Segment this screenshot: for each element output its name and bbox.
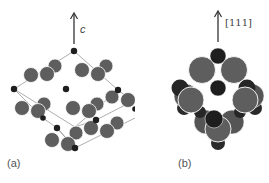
front-grey-atoms [178, 57, 258, 143]
unit-cell-diagram [0, 0, 135, 183]
c-axis-label: c [80, 23, 86, 35]
direction-111-label: [111] [225, 17, 252, 28]
panel-a-label: (a) [7, 157, 20, 169]
panel-b-label: (b) [178, 157, 191, 169]
c-axis-arrow [71, 13, 78, 44]
direction-111-arrow [215, 11, 222, 42]
large-atoms [15, 59, 136, 152]
panel-a: c (a) [0, 0, 135, 183]
